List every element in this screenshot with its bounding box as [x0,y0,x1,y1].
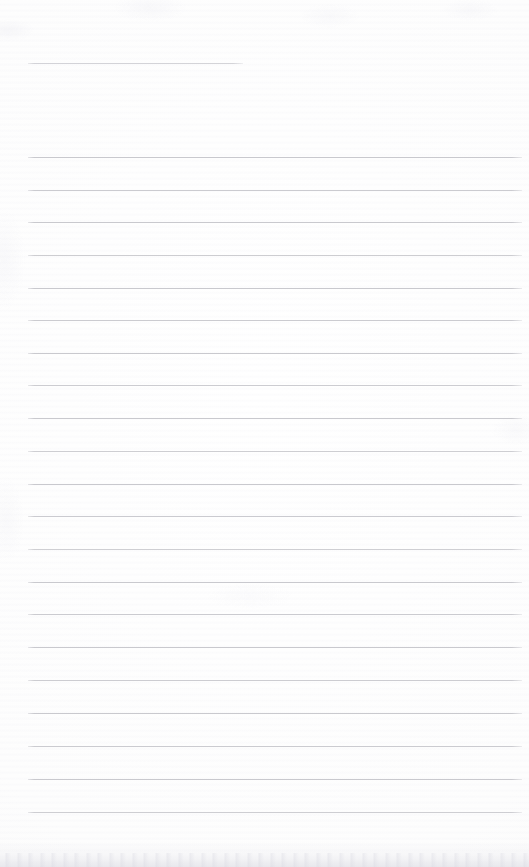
ruled-line [28,582,522,583]
scanned-page [0,0,529,867]
ruled-line [28,614,522,615]
ruled-line [28,680,522,681]
ruled-line [28,746,522,747]
paper-surface [0,0,529,867]
ruled-line [28,255,522,256]
ruled-line [28,288,522,289]
ruled-line [28,779,522,780]
ruled-line [28,320,522,321]
ruled-line [28,812,522,813]
ruled-line [28,516,522,517]
ruled-line [28,157,522,158]
ruled-line [28,385,522,386]
ruled-line [28,353,522,354]
ruled-line [28,549,522,550]
ruled-line [28,713,522,714]
ruled-line [28,418,522,419]
ruled-line [28,222,522,223]
ruled-line [28,647,522,648]
ruled-line [28,451,522,452]
header-rule-line [28,63,243,64]
ruled-line [28,190,522,191]
ruled-line [28,484,522,485]
